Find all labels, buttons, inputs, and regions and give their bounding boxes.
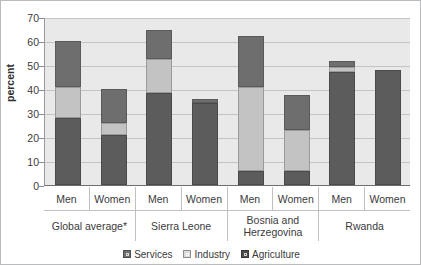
- y-tick-label-0: 0: [5, 181, 39, 191]
- y-tick-label-10: 10: [5, 157, 39, 167]
- x-group-label-2: Bosnia and Herzegovina: [228, 211, 320, 241]
- bar-segment-services: [192, 99, 218, 104]
- legend-label-industry: Industry: [194, 249, 230, 260]
- y-tick-label-60: 60: [5, 37, 39, 47]
- y-tick-mark-10: [39, 162, 44, 163]
- bar-global-average-men: [55, 41, 81, 185]
- bar-segment-services: [238, 36, 264, 86]
- bar-rwanda-men: [329, 61, 355, 185]
- y-tick-mark-50: [39, 66, 44, 67]
- bar-segment-industry: [146, 59, 172, 93]
- bar-segment-agriculture: [146, 93, 172, 185]
- chart-legend: ServicesIndustryAgriculture: [1, 245, 421, 263]
- bar-segment-industry: [55, 87, 81, 118]
- y-axis-tick-labels: 706050403020100: [1, 18, 39, 186]
- y-tick-label-20: 20: [5, 133, 39, 143]
- legend-item-services[interactable]: Services: [123, 249, 172, 260]
- bar-segment-industry: [284, 130, 310, 171]
- bar-bosnia-and-herzegovina-women: [284, 95, 310, 185]
- x-subcategory-label-3: Women: [182, 187, 228, 210]
- x-axis-subcategory-row: MenWomenMenWomenMenWomenMenWomen: [44, 187, 410, 211]
- legend-item-agriculture[interactable]: Agriculture: [241, 249, 300, 260]
- x-axis-labels: MenWomenMenWomenMenWomenMenWomen Global …: [44, 187, 410, 241]
- bar-segment-services: [146, 30, 172, 59]
- y-tick-mark-30: [39, 114, 44, 115]
- bar-segment-agriculture: [284, 171, 310, 185]
- bar-segment-industry: [101, 123, 127, 135]
- bar-segment-services: [284, 95, 310, 130]
- y-tick-mark-20: [39, 138, 44, 139]
- chart-figure: percent 706050403020100 MenWomenMenWomen…: [0, 0, 421, 265]
- legend-swatch-services-icon: [123, 250, 131, 258]
- x-subcategory-label-2: Men: [136, 187, 182, 210]
- bar-segment-agriculture: [101, 135, 127, 185]
- bar-segment-agriculture: [192, 103, 218, 185]
- bar-bosnia-and-herzegovina-men: [238, 36, 264, 185]
- bar-segment-services: [329, 61, 355, 67]
- plot-area: [44, 18, 410, 186]
- y-tick-mark-70: [39, 18, 44, 19]
- legend-swatch-agriculture-icon: [241, 250, 249, 258]
- bar-segment-services: [101, 89, 127, 123]
- bar-sierra-leone-men: [146, 30, 172, 185]
- y-tick-label-70: 70: [5, 13, 39, 23]
- bar-segment-agriculture: [375, 70, 401, 185]
- x-group-label-3: Rwanda: [319, 211, 410, 241]
- y-tick-mark-40: [39, 90, 44, 91]
- bar-segment-agriculture: [329, 72, 355, 185]
- y-tick-mark-0: [39, 186, 44, 187]
- x-group-label-0: Global average*: [44, 211, 136, 241]
- gridline-70: [45, 18, 410, 19]
- x-axis-group-row: Global average*Sierra LeoneBosnia and He…: [44, 211, 410, 241]
- y-tick-label-50: 50: [5, 61, 39, 71]
- x-subcategory-label-7: Women: [365, 187, 410, 210]
- legend-label-agriculture: Agriculture: [252, 249, 300, 260]
- x-subcategory-label-5: Women: [273, 187, 319, 210]
- x-subcategory-label-1: Women: [90, 187, 136, 210]
- x-subcategory-label-6: Men: [319, 187, 365, 210]
- y-tick-mark-60: [39, 42, 44, 43]
- x-subcategory-label-4: Men: [228, 187, 274, 210]
- bar-segment-agriculture: [238, 171, 264, 185]
- legend-item-industry[interactable]: Industry: [183, 249, 230, 260]
- bar-segment-industry: [238, 87, 264, 171]
- x-group-label-1: Sierra Leone: [136, 211, 228, 241]
- bar-global-average-women: [101, 89, 127, 185]
- bar-rwanda-women: [375, 70, 401, 185]
- x-subcategory-label-0: Men: [44, 187, 90, 210]
- bar-segment-industry: [329, 67, 355, 72]
- bar-sierra-leone-women: [192, 99, 218, 185]
- legend-swatch-industry-icon: [183, 250, 191, 258]
- legend-label-services: Services: [134, 249, 172, 260]
- bar-segment-services: [55, 41, 81, 87]
- gridline-60: [45, 42, 410, 43]
- bar-segment-agriculture: [55, 118, 81, 185]
- y-tick-label-30: 30: [5, 109, 39, 119]
- y-tick-label-40: 40: [5, 85, 39, 95]
